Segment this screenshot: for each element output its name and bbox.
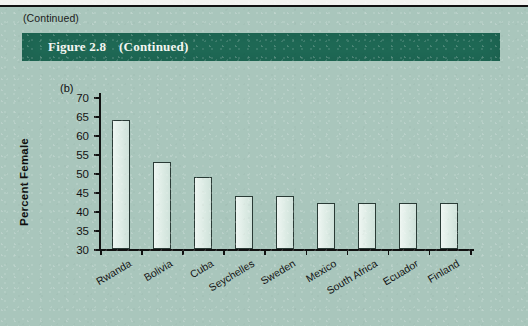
bar-seychelles (235, 196, 253, 249)
x-axis-tick (306, 249, 308, 255)
y-axis-tick: 50 (94, 173, 100, 175)
y-axis-tick-label: 60 (76, 130, 89, 142)
x-axis-tick (429, 249, 431, 255)
page: (Continued) Figure 2.8(Continued) (b) Pe… (0, 0, 528, 326)
y-axis-tick-label: 40 (76, 206, 89, 218)
y-axis-tick-label: 65 (76, 111, 89, 123)
panel-label: (b) (60, 82, 73, 94)
y-axis-tick-label: 55 (76, 149, 89, 161)
y-axis-tick-label: 70 (76, 92, 89, 104)
y-axis-tick: 35 (94, 230, 100, 232)
figure-number: Figure 2.8 (48, 39, 106, 54)
y-axis-tick: 40 (94, 211, 100, 213)
bar-chart: (b) Percent Female 303540455055606570 Rw… (0, 66, 528, 326)
figure-continued-label: (Continued) (119, 39, 188, 54)
bar-mexico (317, 203, 335, 249)
bar-bolivia (153, 162, 171, 249)
x-axis-tick (141, 249, 143, 255)
bar-cuba (194, 177, 212, 249)
y-axis-tick: 60 (94, 135, 100, 137)
bar-sweden (276, 196, 294, 249)
continued-note: (Continued) (23, 12, 79, 24)
x-axis-tick (223, 249, 225, 255)
x-axis-tick (347, 249, 349, 255)
y-axis-tick-label: 30 (76, 244, 89, 256)
x-axis-tick (388, 249, 390, 255)
page-top-rule (0, 5, 528, 7)
figure-banner: Figure 2.8(Continued) (22, 33, 500, 61)
y-axis-tick: 45 (94, 192, 100, 194)
bar-ecuador (399, 203, 417, 249)
y-axis-tick: 65 (94, 116, 100, 118)
x-axis-tick (100, 249, 102, 255)
y-axis-title: Percent Female (18, 127, 30, 237)
x-axis-tick (182, 249, 184, 255)
x-axis-tick (470, 249, 472, 255)
y-axis-tick: 55 (94, 154, 100, 156)
bar-rwanda (112, 120, 130, 249)
x-axis-line (99, 249, 474, 251)
figure-banner-text: Figure 2.8(Continued) (48, 39, 188, 55)
x-axis-tick (264, 249, 266, 255)
plot-area: 303540455055606570 RwandaBoliviaCubaSeyc… (100, 97, 470, 249)
y-axis-tick-label: 35 (76, 225, 89, 237)
y-axis-tick-label: 50 (76, 168, 89, 180)
y-axis-tick: 70 (94, 97, 100, 99)
bar-finland (440, 203, 458, 249)
y-axis-tick-label: 45 (76, 187, 89, 199)
bar-south-africa (358, 203, 376, 249)
